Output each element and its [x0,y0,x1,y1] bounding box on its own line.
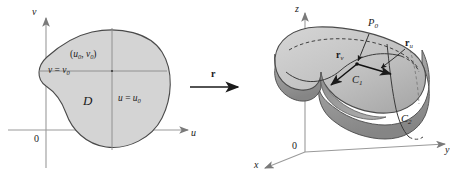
origin-label-uv: 0 [34,134,39,144]
v-axis-label: v [32,7,36,17]
z-axis-label: z [295,4,299,14]
mapping-arrow-label: r [211,69,215,79]
v-rhs-subscript: 0 [67,69,70,76]
c2-subscript: 2 [408,118,412,126]
c2-letter: C [401,113,408,124]
ru-subscript: u [409,42,412,49]
x-axis [265,152,305,168]
tangent-vector-ru-label: ru [405,38,413,50]
u-axis-label: u [191,128,196,138]
equals-sign-v: = [52,65,62,75]
p0-subscript: 0 [374,22,378,30]
surface-panel: z y x 0 P0 ru rv C1 C2 [229,0,458,172]
c1-subscript: 1 [359,79,363,87]
surface-parametrization-figure: v u 0 (u0, v0) v = v0 D u = u0 r [0,0,458,172]
grid-curve-c2-hidden [409,137,423,139]
label-u-equals-u0: u = u0 [118,94,141,104]
y-axis-label: y [445,145,449,155]
grid-curve-c2-label: C2 [401,114,412,126]
equals-sign-u: = [123,93,133,103]
point-u0-v0-label: (u0, v0) [70,50,97,60]
paren-close: ) [93,49,96,59]
rv-subscript: v [340,54,343,61]
surface-graphic [229,0,458,172]
x-axis-label: x [254,160,258,170]
tangent-vector-rv-label: rv [336,50,343,62]
label-v-equals-v0: v = v0 [48,66,70,76]
grid-curve-c1-label: C1 [352,75,363,87]
u-rhs-subscript: 0 [138,97,141,104]
y-axis [305,144,445,152]
region-D-label: D [83,94,92,107]
origin-label-xyz: 0 [292,141,297,151]
point-u0v0-dot [111,70,113,72]
point-p0-label: P0 [368,18,378,30]
c1-letter: C [352,74,359,85]
